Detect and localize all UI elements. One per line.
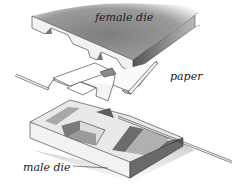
label-female-die: female die (94, 11, 154, 24)
paper-sheet (15, 61, 158, 101)
label-male-die: male die (23, 161, 71, 174)
embossing-diagram: female die paper male die (0, 0, 247, 193)
label-paper: paper (170, 70, 203, 83)
